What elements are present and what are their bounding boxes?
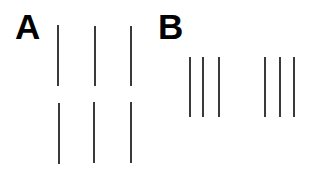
vertical-line <box>293 57 295 117</box>
vertical-line <box>202 57 204 117</box>
vertical-line <box>130 102 132 163</box>
panel-a-label: A <box>15 9 40 44</box>
panel-b-label: B <box>158 9 183 44</box>
vertical-line <box>279 57 281 117</box>
vertical-line <box>130 26 132 86</box>
vertical-line <box>57 25 59 86</box>
vertical-line <box>58 103 60 164</box>
vertical-line <box>189 57 191 117</box>
vertical-line <box>94 26 96 86</box>
vertical-line <box>264 57 266 117</box>
vertical-line <box>218 57 220 117</box>
vertical-line <box>93 102 95 163</box>
